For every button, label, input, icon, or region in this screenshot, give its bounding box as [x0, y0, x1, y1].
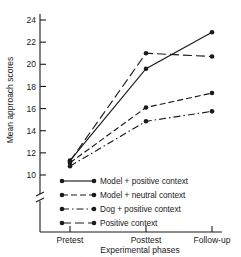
legend-marker-start-1: [60, 193, 65, 198]
y-tick-label: 16: [27, 104, 37, 114]
x-tick-label: Follow-up: [194, 235, 231, 245]
y-axis-break-icon: [36, 192, 44, 202]
y-tick-label: 24: [27, 15, 37, 25]
y-tick-label: 20: [27, 59, 37, 69]
data-point-2-1: [144, 119, 149, 124]
legend-label-3: Positive context: [100, 219, 158, 228]
x-tick-label: Pretest: [57, 235, 85, 245]
legend-entry-1: Model + neutral context: [60, 191, 186, 200]
line-chart: 1012141618202224PretestPosttestFollow-up…: [0, 0, 241, 257]
data-point-3-0: [68, 159, 73, 164]
series-line-1: [70, 93, 212, 163]
legend-entry-3: Positive context: [60, 219, 158, 228]
y-tick-label: 22: [27, 37, 37, 47]
legend-entry-2: Dog + positive context: [60, 205, 182, 214]
data-point-0-1: [144, 66, 149, 71]
legend-marker-start-0: [60, 179, 65, 184]
legend-marker-start-2: [60, 207, 65, 212]
legend-label-2: Dog + positive context: [100, 205, 182, 214]
data-point-1-2: [210, 91, 215, 96]
y-tick-label: 18: [27, 82, 37, 92]
legend-marker-end-0: [92, 179, 97, 184]
legend-marker-start-3: [60, 221, 65, 226]
y-tick-label: 14: [27, 126, 37, 136]
data-point-0-2: [210, 30, 215, 35]
data-point-1-1: [144, 105, 149, 110]
x-tick-label: Posttest: [131, 235, 162, 245]
series-line-3: [70, 53, 212, 161]
data-point-2-2: [210, 109, 215, 114]
series-line-0: [70, 32, 212, 160]
data-point-3-2: [210, 54, 215, 59]
y-axis-title: Mean approach scores: [5, 57, 15, 143]
data-point-2-0: [68, 164, 73, 169]
legend-entry-0: Model + positive context: [60, 177, 189, 186]
legend-marker-end-2: [92, 207, 97, 212]
series-line-2: [70, 111, 212, 166]
y-tick-label: 10: [27, 170, 37, 180]
y-tick-label: 12: [27, 148, 37, 158]
x-axis-title: Experimental phases: [100, 245, 179, 255]
legend-label-0: Model + positive context: [100, 177, 189, 186]
data-point-3-1: [144, 51, 149, 56]
chart-container: 1012141618202224PretestPosttestFollow-up…: [0, 0, 241, 257]
legend-marker-end-1: [92, 193, 97, 198]
legend-marker-end-3: [92, 221, 97, 226]
legend-label-1: Model + neutral context: [100, 191, 186, 200]
